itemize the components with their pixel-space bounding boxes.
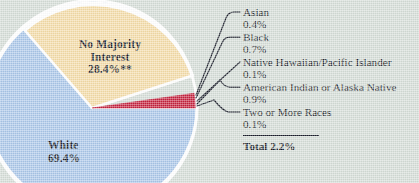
callout-aian-name: American Indian or Alaska Native bbox=[243, 81, 396, 93]
callout-black-percent: 0.7% bbox=[243, 43, 269, 55]
callout-total: Total 2.2% bbox=[243, 140, 295, 152]
callout-aian-percent: 0.9% bbox=[243, 93, 396, 105]
slice-label-no-majority-interest: No Majority Interest 28.4%** bbox=[60, 38, 160, 76]
callout-total-divider bbox=[243, 135, 319, 136]
callout-twomore-name: Two or More Races bbox=[243, 106, 331, 118]
callout-black-name: Black bbox=[243, 31, 269, 43]
slice-label-white-value: 69.4% bbox=[48, 152, 80, 164]
callout-nhpi-name: Native Hawaiian/Pacific Islander bbox=[243, 56, 391, 68]
pie-chart-figure: No Majority Interest 28.4%** White 69.4%… bbox=[0, 0, 419, 183]
callout-asian-name: Asian bbox=[243, 6, 269, 18]
callout-american-indian-alaska-native: American Indian or Alaska Native 0.9% bbox=[243, 81, 396, 105]
callout-twomore-percent: 0.1% bbox=[243, 118, 331, 130]
slice-label-no-majority-line2: Interest bbox=[91, 51, 130, 63]
callout-asian-percent: 0.4% bbox=[243, 18, 269, 30]
slice-label-no-majority-value: 28.4%** bbox=[88, 63, 132, 75]
callout-asian: Asian 0.4% bbox=[243, 6, 269, 30]
callout-black: Black 0.7% bbox=[243, 31, 269, 55]
callout-two-or-more-races: Two or More Races 0.1% bbox=[243, 106, 331, 130]
slice-label-white: White 69.4% bbox=[48, 139, 118, 164]
leader-line-twomore bbox=[197, 100, 240, 112]
callout-nhpi-percent: 0.1% bbox=[243, 68, 391, 80]
slice-label-no-majority-line1: No Majority bbox=[79, 38, 141, 50]
slice-label-white-name: White bbox=[48, 139, 79, 151]
callout-native-hawaiian-pacific-islander: Native Hawaiian/Pacific Islander 0.1% bbox=[243, 56, 391, 80]
